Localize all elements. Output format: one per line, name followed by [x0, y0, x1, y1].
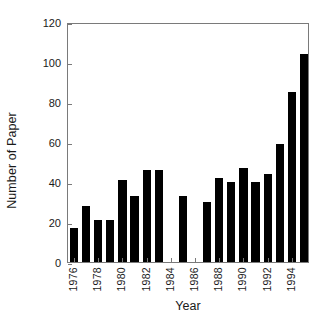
bar-1995	[300, 54, 308, 262]
x-axis-tick-label: 1986	[188, 267, 200, 292]
x-axis-tick-label: 1982	[140, 267, 152, 292]
x-axis-tick-label: 1988	[212, 267, 224, 292]
y-axis-tick-mark	[68, 104, 72, 105]
y-axis-title: Number of Paper	[0, 0, 24, 321]
y-axis-tick-label: 60	[21, 137, 61, 149]
x-axis-tick-label: 1984	[164, 267, 176, 292]
x-axis-tick-mark	[147, 258, 148, 262]
bar-1992	[264, 174, 272, 262]
x-axis-tick-label: 1990	[236, 267, 248, 292]
y-axis-tick-label: 100	[21, 57, 61, 69]
x-axis-tick-label: 1976	[67, 267, 79, 292]
bar-1983	[155, 170, 163, 262]
x-axis-tick-label: 1980	[115, 267, 127, 292]
bar-1985	[179, 196, 187, 262]
bar-1988	[215, 178, 223, 262]
bar-1990	[239, 168, 247, 262]
x-axis-tick-mark	[219, 258, 220, 262]
x-axis-tick-mark	[98, 258, 99, 262]
y-axis-tick-mark	[68, 184, 72, 185]
bar-1979	[106, 220, 114, 262]
bar-1977	[82, 206, 90, 262]
y-axis-tick-label: 120	[21, 17, 61, 29]
x-axis-tick-mark	[74, 258, 75, 262]
x-axis-tick-mark	[171, 258, 172, 262]
x-axis-title: Year	[66, 299, 310, 313]
bar-1981	[130, 196, 138, 262]
bar-1991	[251, 182, 259, 262]
y-axis-tick-mark	[68, 264, 72, 265]
x-axis-tick-label: 1978	[91, 267, 103, 292]
x-axis-tick-mark	[243, 258, 244, 262]
bar-1976	[70, 228, 78, 262]
y-axis-tick-mark	[68, 144, 72, 145]
y-axis-tick-label: 40	[21, 177, 61, 189]
y-axis-tick-label: 80	[21, 97, 61, 109]
y-axis-tick-mark	[68, 24, 72, 25]
x-axis-tick-mark	[292, 258, 293, 262]
x-axis-tick-mark	[195, 258, 196, 262]
bar-1982	[143, 170, 151, 262]
x-axis-tick-mark	[122, 258, 123, 262]
bar-1994	[288, 92, 296, 262]
y-axis-tick-label: 20	[21, 217, 61, 229]
bar-1993	[276, 144, 284, 262]
x-axis-tick-mark	[268, 258, 269, 262]
paper-count-bar-chart: Number of Paper Year 0204060801001201976…	[0, 0, 322, 321]
bar-1987	[203, 202, 211, 262]
bar-1989	[227, 182, 235, 262]
x-axis-tick-label: 1992	[261, 267, 273, 292]
y-axis-tick-mark	[68, 64, 72, 65]
y-axis-tick-label: 0	[21, 257, 61, 269]
x-axis-tick-label: 1994	[285, 267, 297, 292]
y-axis-tick-mark	[68, 224, 72, 225]
bar-1980	[118, 180, 126, 262]
plot-area	[67, 23, 309, 263]
bar-1978	[94, 220, 102, 262]
